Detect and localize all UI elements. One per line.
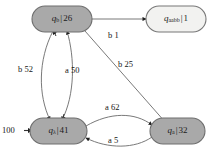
diagram-canvas <box>0 0 210 153</box>
node-q-lambda[interactable] <box>30 118 87 144</box>
edge-label-b25: b 25 <box>118 60 133 69</box>
edge-a50 <box>62 31 72 120</box>
edge-a62 <box>86 115 152 126</box>
edge-label-a62: a 62 <box>105 103 119 112</box>
edge-a5 <box>86 137 152 146</box>
edge-label-a5: a 5 <box>108 136 118 145</box>
edge-b52 <box>41 31 53 120</box>
node-q-b[interactable] <box>32 6 92 32</box>
edge-label-b52: b 52 <box>18 65 33 74</box>
node-q-aabb[interactable] <box>146 6 206 32</box>
edge-label-a50: a 50 <box>65 66 79 75</box>
start-weight-label: 100 <box>2 126 15 135</box>
edge-b25 <box>85 31 166 123</box>
edge-label-b1: b 1 <box>108 31 119 40</box>
state-machine-diagram: qb|26 qaabb|1 qλ|41 qa|32 b 1 b 52 a 50 … <box>0 0 210 153</box>
node-q-a[interactable] <box>150 118 205 144</box>
